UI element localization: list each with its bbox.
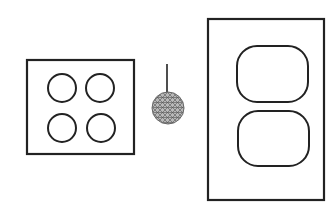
left-plate-frame	[27, 60, 134, 154]
diagram-canvas	[0, 0, 331, 210]
right-plate	[208, 19, 324, 200]
pendant-light	[152, 64, 184, 124]
outlet-opening	[237, 46, 308, 102]
left-plate	[27, 60, 134, 154]
plate-hole-circle	[48, 74, 76, 102]
plate-hole-circle	[48, 114, 76, 142]
plate-hole-circle	[86, 74, 114, 102]
pendant-globe-mesh	[153, 93, 184, 124]
plate-hole-circle	[87, 114, 115, 142]
outlet-opening	[238, 111, 309, 166]
